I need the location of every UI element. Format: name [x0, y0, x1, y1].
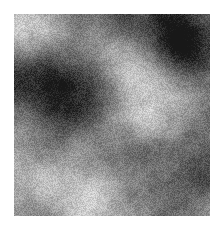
image-viewport [0, 0, 224, 231]
grayscale-noise-texture [14, 14, 210, 216]
